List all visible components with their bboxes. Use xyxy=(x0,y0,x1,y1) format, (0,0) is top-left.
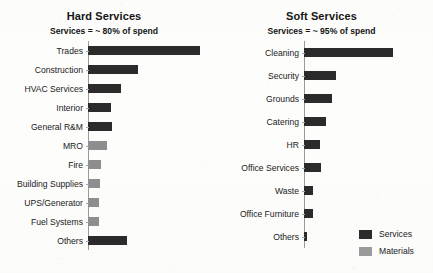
bar-services xyxy=(304,94,332,103)
bar-category-label: Fire xyxy=(0,160,88,170)
bar-row: Interior xyxy=(0,98,216,117)
bar-row: HVAC Services xyxy=(0,79,216,98)
bar-category-label: HVAC Services xyxy=(0,84,88,94)
bar-row: Building Supplies xyxy=(0,174,216,193)
soft-services-subtitle: Services = ~ 95% of spend xyxy=(216,26,433,36)
bar-services xyxy=(304,117,326,126)
legend-swatch-services-icon xyxy=(359,230,372,239)
bar-category-label: UPS/Generator xyxy=(0,198,88,208)
bar-row: Others xyxy=(0,231,216,250)
bar-services xyxy=(88,236,127,245)
axis-tick xyxy=(86,184,89,185)
scan-speck xyxy=(205,12,207,13)
axis-tick xyxy=(302,122,305,123)
bar-row: Security xyxy=(216,64,433,87)
legend-swatch-materials-icon xyxy=(359,247,372,256)
scan-speck xyxy=(28,6,30,7)
chart-legend: Services Materials xyxy=(359,229,414,263)
bar-materials xyxy=(88,179,100,188)
axis-tick xyxy=(86,127,89,128)
bar-materials xyxy=(88,217,99,226)
axis-tick xyxy=(302,53,305,54)
bar-services xyxy=(304,71,336,80)
legend-label-services: Services xyxy=(379,229,412,239)
legend-label-materials: Materials xyxy=(379,246,414,256)
soft-services-chart: Soft Services Services = ~ 95% of spend … xyxy=(216,0,433,248)
legend-item-materials: Materials xyxy=(359,246,414,256)
axis-tick xyxy=(302,145,305,146)
bar-services xyxy=(88,103,111,112)
axis-tick xyxy=(302,168,305,169)
axis-tick xyxy=(86,203,89,204)
axis-tick xyxy=(302,191,305,192)
bar-materials xyxy=(88,141,107,150)
bar-category-label: Catering xyxy=(216,117,304,127)
bar-services xyxy=(304,209,313,218)
axis-tick xyxy=(86,89,89,90)
bar-services xyxy=(304,186,313,195)
scan-speck xyxy=(262,252,264,253)
bar-services xyxy=(88,65,138,74)
bar-row: General R&M xyxy=(0,117,216,136)
soft-services-plot: CleaningSecurityGroundsCateringHROffice … xyxy=(216,41,433,248)
bar-row: Office Services xyxy=(216,156,433,179)
scan-speck xyxy=(352,268,355,269)
bar-category-label: General R&M xyxy=(0,122,88,132)
bar-row: Construction xyxy=(0,60,216,79)
bar-category-label: Cleaning xyxy=(216,48,304,58)
bar-category-label: Building Supplies xyxy=(0,179,88,189)
bar-category-label: HR xyxy=(216,140,304,150)
bar-row: Cleaning xyxy=(216,41,433,64)
scan-speck xyxy=(420,190,422,191)
axis-tick xyxy=(86,108,89,109)
bar-row: Waste xyxy=(216,179,433,202)
scan-speck xyxy=(60,258,63,259)
scan-speck xyxy=(300,5,302,6)
scan-speck xyxy=(170,264,172,265)
bar-category-label: Trades xyxy=(0,46,88,56)
axis-tick xyxy=(86,222,89,223)
bar-category-label: Office Furniture xyxy=(216,209,304,219)
axis-tick xyxy=(302,99,305,100)
hard-services-subtitle: Services = ~ 80% of spend xyxy=(0,26,216,36)
scan-speck xyxy=(18,120,20,121)
bar-row: Office Furniture xyxy=(216,202,433,225)
bar-category-label: Interior xyxy=(0,103,88,113)
bar-category-label: Fuel Systems xyxy=(0,217,88,227)
bar-category-label: Construction xyxy=(0,65,88,75)
axis-tick xyxy=(86,165,89,166)
axis-tick xyxy=(86,51,89,52)
hard-services-plot: TradesConstructionHVAC ServicesInteriorG… xyxy=(0,41,216,250)
bar-row: Trades xyxy=(0,41,216,60)
bar-row: Fire xyxy=(0,155,216,174)
scan-speck xyxy=(120,4,123,5)
bar-category-label: Grounds xyxy=(216,94,304,104)
hard-services-chart: Hard Services Services = ~ 80% of spend … xyxy=(0,0,216,250)
bar-category-label: Office Services xyxy=(216,163,304,173)
bar-category-label: Others xyxy=(0,236,88,246)
bar-category-label: Waste xyxy=(216,186,304,196)
bar-services xyxy=(304,48,393,57)
bar-category-label: Security xyxy=(216,71,304,81)
soft-services-title: Soft Services xyxy=(216,10,433,22)
bar-row: MRO xyxy=(0,136,216,155)
bar-row: UPS/Generator xyxy=(0,193,216,212)
bar-category-label: MRO xyxy=(0,141,88,151)
bar-materials xyxy=(88,198,99,207)
bar-row: Catering xyxy=(216,110,433,133)
axis-tick xyxy=(86,241,89,242)
scan-speck xyxy=(398,9,401,10)
axis-tick xyxy=(302,76,305,77)
bar-services xyxy=(304,140,320,149)
scan-speck xyxy=(205,160,207,161)
bar-materials xyxy=(88,160,101,169)
hard-services-title: Hard Services xyxy=(0,10,216,22)
axis-tick xyxy=(86,146,89,147)
bar-category-label: Others xyxy=(216,232,304,242)
legend-item-services: Services xyxy=(359,229,414,239)
scan-speck xyxy=(340,120,342,121)
bar-services xyxy=(88,122,112,131)
axis-tick xyxy=(86,70,89,71)
scan-speck xyxy=(412,248,414,249)
bar-row: Fuel Systems xyxy=(0,212,216,231)
